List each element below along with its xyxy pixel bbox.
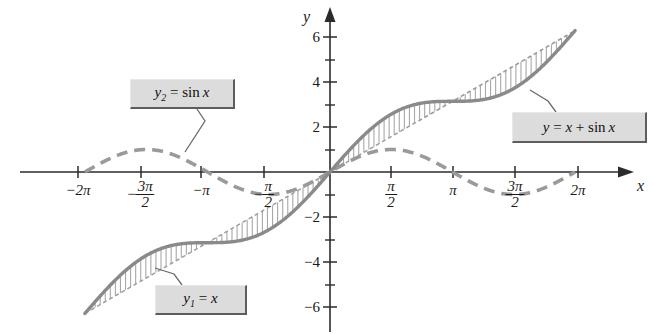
callout-sum-text: y = x + sin x: [543, 119, 615, 136]
callout-sine-text: y2 = sin x: [155, 84, 210, 103]
y-tick-label: −6: [282, 299, 320, 316]
y-axis-label: y: [303, 8, 310, 26]
y-tick-label: −4: [282, 254, 320, 271]
callout-sum-label[interactable]: y = x + sin x: [512, 112, 647, 143]
x-tick-label: −π: [192, 182, 210, 199]
leader-line-sum: [530, 90, 556, 112]
y-tick-label: 6: [282, 29, 320, 46]
y-tick-label: 4: [282, 74, 320, 91]
x-tick-label: π: [449, 182, 457, 199]
x-tick-label: −2π: [65, 182, 90, 199]
x-axis-label: x: [637, 177, 644, 195]
y-tick-label: −2: [282, 209, 320, 226]
figure-canvas: y x −2π−3π2−π−π2π2π3π22π 642−2−4−6 y2 = …: [0, 0, 653, 334]
callout-leader-lines: [155, 90, 556, 285]
callout-line-label[interactable]: y1 = x: [155, 285, 247, 315]
x-tick-label: π2: [385, 179, 397, 210]
callout-sine-label[interactable]: y2 = sin x: [130, 79, 235, 109]
leader-line-sine: [185, 109, 205, 152]
x-tick-label: 2π: [570, 182, 585, 199]
x-axis-arrow: [618, 167, 634, 178]
y-tick-label: 2: [282, 119, 320, 136]
x-tick-label: 3π2: [505, 179, 524, 210]
y-axis-arrow: [325, 7, 336, 22]
callout-line-text: y1 = x: [183, 290, 217, 309]
plot-svg: [0, 0, 653, 334]
x-tick-label: −π2: [254, 179, 274, 210]
x-tick-label: −3π2: [127, 179, 154, 210]
